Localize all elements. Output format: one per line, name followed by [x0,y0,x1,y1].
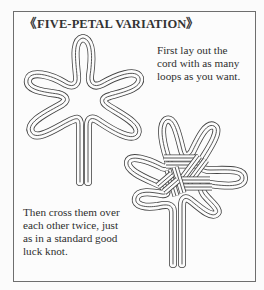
cord-loop [28,38,140,182]
finished-knot-drawing [128,119,244,264]
five-loop-layout-drawing [28,38,140,182]
knot-illustrations [0,0,264,290]
